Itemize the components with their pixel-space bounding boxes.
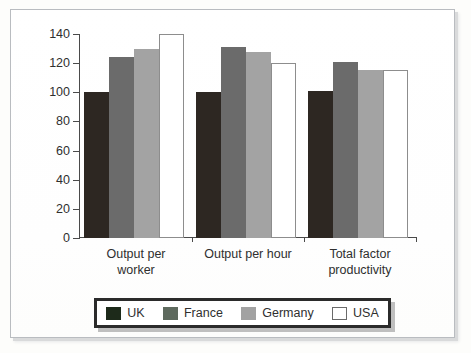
legend-label: France bbox=[184, 306, 223, 320]
bar-france bbox=[333, 62, 358, 238]
x-axis-category-label: Output perworker bbox=[76, 246, 196, 278]
bar-group bbox=[84, 34, 196, 238]
chart-legend: UKFranceGermanyUSA bbox=[94, 298, 391, 328]
y-axis-tick bbox=[73, 92, 80, 93]
bar-uk bbox=[84, 92, 109, 238]
y-axis-tick-label: 40 bbox=[30, 174, 70, 187]
bar-france bbox=[221, 47, 246, 238]
y-axis-tick-label: 120 bbox=[30, 57, 70, 70]
bar-france bbox=[109, 57, 134, 238]
bar-group bbox=[308, 34, 420, 238]
legend-item-france: France bbox=[163, 306, 223, 320]
legend-swatch-usa bbox=[332, 307, 347, 320]
x-axis-tick bbox=[416, 237, 417, 242]
bar-usa bbox=[159, 34, 184, 238]
x-axis-tick bbox=[192, 237, 193, 242]
x-axis-tick bbox=[304, 237, 305, 242]
y-axis-tick-label: 60 bbox=[30, 145, 70, 158]
x-axis-category-label-line: Total factor bbox=[300, 246, 420, 262]
y-axis-tick bbox=[73, 121, 80, 122]
bar-germany bbox=[358, 70, 383, 238]
y-axis-tick bbox=[73, 151, 80, 152]
x-axis-category-label-line: worker bbox=[76, 262, 196, 278]
x-axis-category-label-line: Output per hour bbox=[188, 246, 308, 262]
bar-germany bbox=[134, 49, 159, 238]
x-axis-category-label-line: Output per bbox=[76, 246, 196, 262]
bar-chart: 020406080100120140 Output perworkerOutpu… bbox=[11, 10, 454, 275]
bar-uk bbox=[196, 92, 221, 238]
y-axis-tick bbox=[73, 209, 80, 210]
bar-usa bbox=[383, 70, 408, 238]
legend-item-usa: USA bbox=[332, 306, 379, 320]
legend-swatch-germany bbox=[241, 307, 256, 320]
bar-usa bbox=[271, 63, 296, 238]
y-axis-tick bbox=[73, 238, 80, 239]
chart-page-background: 020406080100120140 Output perworkerOutpu… bbox=[11, 10, 454, 337]
legend-swatch-france bbox=[163, 307, 178, 320]
bar-uk bbox=[308, 91, 333, 238]
y-axis-tick bbox=[73, 34, 80, 35]
legend-label: USA bbox=[353, 306, 379, 320]
bar-germany bbox=[246, 52, 271, 239]
chart-page-frame: 020406080100120140 Output perworkerOutpu… bbox=[10, 9, 455, 338]
y-axis-tick-label: 0 bbox=[30, 232, 70, 245]
legend-item-uk: UK bbox=[106, 306, 144, 320]
bar-group bbox=[196, 34, 308, 238]
y-axis-tick-label: 80 bbox=[30, 115, 70, 128]
legend-label: Germany bbox=[262, 306, 313, 320]
x-axis-category-label-line: productivity bbox=[300, 262, 420, 278]
legend-label: UK bbox=[127, 306, 144, 320]
y-axis-tick bbox=[73, 180, 80, 181]
y-axis-tick-label: 100 bbox=[30, 86, 70, 99]
x-axis-category-label: Total factorproductivity bbox=[300, 246, 420, 278]
legend-swatch-uk bbox=[106, 307, 121, 320]
legend-item-germany: Germany bbox=[241, 306, 313, 320]
y-axis-tick-label: 140 bbox=[30, 28, 70, 41]
plot-area bbox=[80, 34, 416, 238]
y-axis-tick-label: 20 bbox=[30, 203, 70, 216]
x-axis-category-label: Output per hour bbox=[188, 246, 308, 262]
y-axis-tick bbox=[73, 63, 80, 64]
